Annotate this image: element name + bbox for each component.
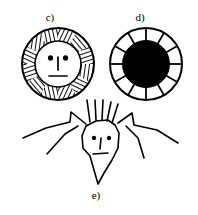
disc-inner-solid — [123, 41, 170, 88]
panel-e-label: e) — [82, 190, 110, 201]
mouth-line — [93, 153, 108, 154]
hair-spikes — [87, 100, 118, 123]
figure-root: c) — [0, 0, 198, 215]
nose-line — [100, 138, 101, 149]
face-features-e — [92, 136, 111, 154]
left-wing-stroke — [23, 112, 86, 154]
head-outline — [82, 125, 119, 184]
panel-d-figure-spoked-solid-disc — [106, 24, 186, 104]
right-eye — [63, 55, 68, 61]
right-wing-stroke — [118, 113, 178, 158]
left-eye — [92, 136, 96, 141]
panel-c-label: c) — [36, 12, 64, 23]
panel-e-figure-spiky-haired-head — [18, 100, 186, 190]
panel-c-figure-hatched-sun-face — [18, 24, 98, 104]
left-eye — [48, 55, 53, 61]
panel-d-label: d) — [126, 12, 154, 23]
right-eye — [107, 136, 111, 141]
